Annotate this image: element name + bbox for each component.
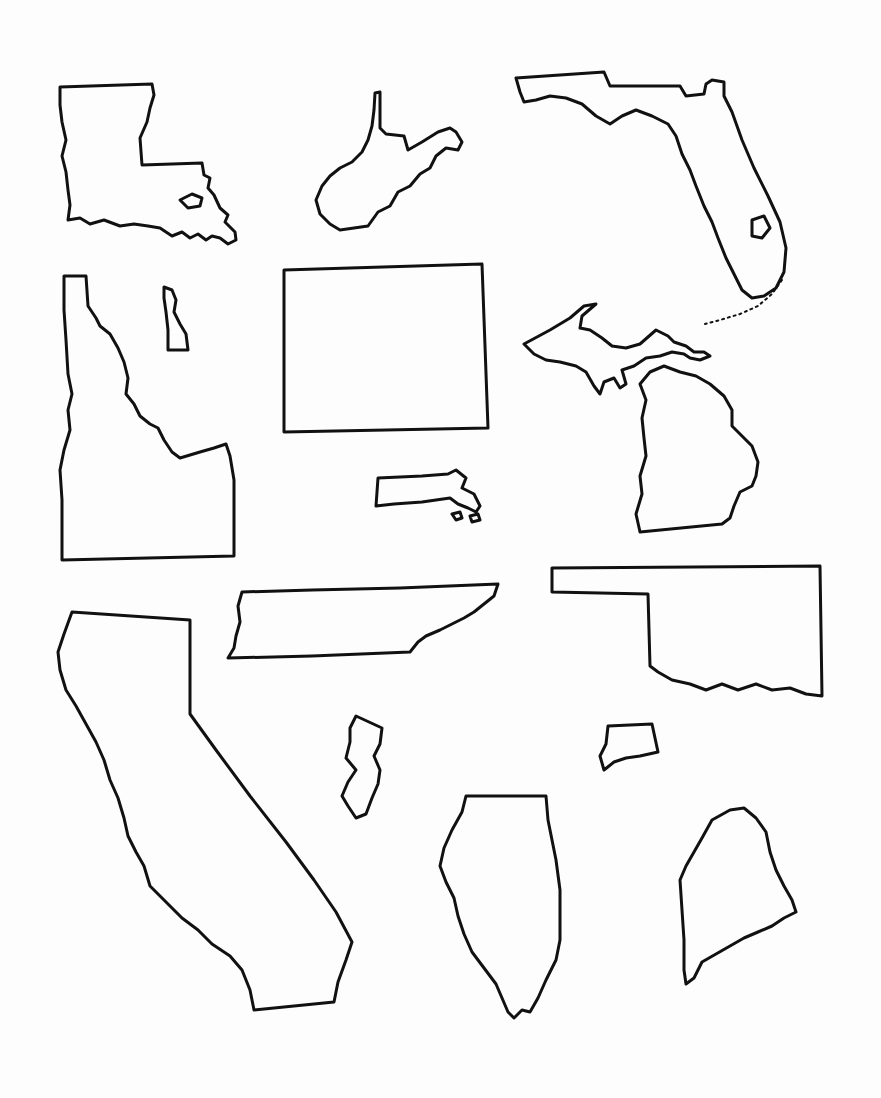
illinois-outline	[440, 796, 560, 1018]
new-jersey-outline	[342, 716, 382, 818]
west-virginia-outline	[316, 92, 462, 230]
florida-outline	[516, 72, 786, 298]
california-outline	[58, 612, 352, 1010]
delaware-outline	[164, 287, 188, 350]
idaho-outline	[60, 276, 234, 560]
massachusetts-outline	[376, 470, 480, 522]
oklahoma-outline	[552, 566, 822, 696]
colorado-outline	[284, 264, 488, 432]
michigan-outline	[524, 304, 758, 532]
tennessee-outline	[228, 584, 498, 658]
connecticut-outline	[600, 724, 658, 770]
maine-outline	[680, 808, 796, 984]
state-outlines-worksheet	[0, 0, 881, 1098]
florida-keys-dotted	[705, 280, 782, 324]
louisiana-outline	[60, 84, 236, 244]
